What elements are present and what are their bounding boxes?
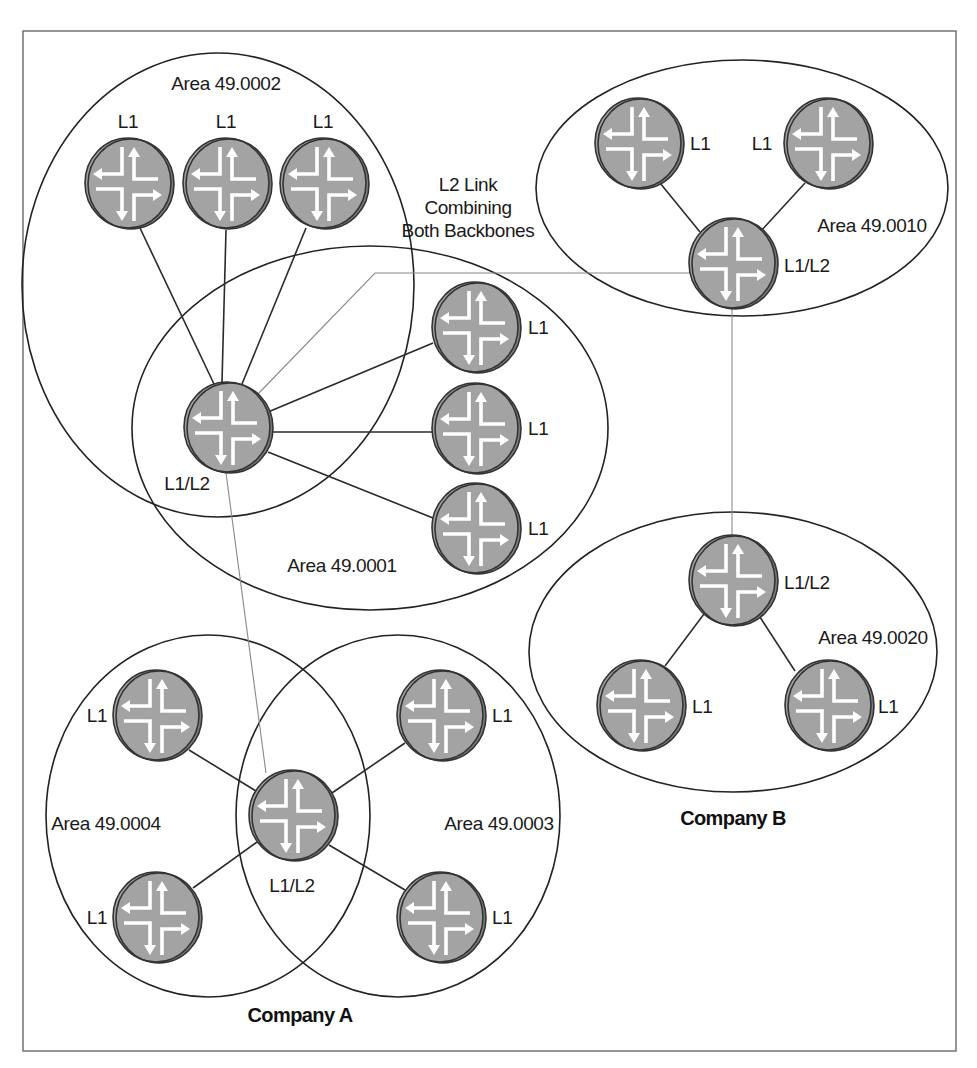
router-r16-icon[interactable]: [689, 535, 778, 626]
router-r17-label: L1: [692, 696, 712, 717]
router-r8-icon[interactable]: [113, 670, 202, 761]
area-49-0003-label: Area 49.0003: [444, 813, 553, 834]
link-r8-r10: [189, 750, 256, 791]
router-r8-label: L1: [87, 705, 107, 726]
link-r16-r18: [758, 614, 795, 671]
router-r15-label: L1/L2: [784, 255, 830, 276]
router-r17-icon[interactable]: [597, 660, 686, 751]
router-r14-label: L1: [752, 133, 772, 154]
router-r4-icon[interactable]: [184, 382, 273, 473]
router-r2-icon[interactable]: [183, 138, 272, 229]
link-r13-r15: [660, 183, 700, 232]
area-49-0020-label: Area 49.0020: [818, 627, 927, 648]
area-49-0001-label: Area 49.0001: [287, 555, 396, 576]
router-r9-label: L1: [87, 907, 107, 928]
router-r10-icon[interactable]: [249, 770, 338, 861]
router-r3-icon[interactable]: [280, 138, 369, 229]
l2-link-company-a: [226, 473, 266, 773]
router-r18-label: L1: [878, 696, 898, 717]
router-r11-label: L1: [492, 705, 512, 726]
router-r1-icon[interactable]: [85, 138, 174, 229]
router-r1-label: L1: [118, 111, 138, 132]
router-r6-icon[interactable]: [432, 383, 521, 474]
l2-link-annotation-line3: Both Backbones: [402, 220, 535, 241]
link-r4-r7: [268, 452, 433, 518]
company-a-label: Company A: [248, 1004, 353, 1026]
link-r16-r17: [665, 614, 704, 666]
router-r4-label: L1/L2: [164, 473, 210, 494]
router-r10-label: L1/L2: [269, 875, 315, 896]
link-r3-r4: [242, 228, 306, 384]
l2-link-annotation-line1: L2 Link: [439, 174, 498, 195]
router-r18-icon[interactable]: [785, 660, 874, 751]
link-r2-r4: [222, 230, 226, 382]
l2-link-annotation-line2: Combining: [424, 197, 511, 218]
router-r12-icon[interactable]: [397, 872, 486, 963]
link-r4-r5: [268, 343, 433, 412]
router-r7-label: L1: [528, 518, 548, 539]
router-r15-icon[interactable]: [689, 218, 778, 309]
network-diagram: L1 L1 L1 L1/L2 L1 L1 L1 L1 L1 L1/L2 L1 L…: [0, 0, 977, 1068]
router-r2-label: L1: [216, 111, 236, 132]
router-r13-icon[interactable]: [595, 98, 684, 189]
router-r13-label: L1: [690, 133, 710, 154]
link-r14-r15: [760, 183, 805, 232]
link-r11-r10: [329, 743, 405, 795]
company-b-label: Company B: [680, 807, 786, 829]
area-49-0010-label: Area 49.0010: [817, 215, 926, 236]
router-r5-label: L1: [528, 317, 548, 338]
link-r1-r4: [140, 228, 214, 384]
router-r3-label: L1: [313, 111, 333, 132]
router-r16-label: L1/L2: [784, 572, 830, 593]
router-r6-label: L1: [528, 418, 548, 439]
router-r11-icon[interactable]: [397, 670, 486, 761]
router-r5-icon[interactable]: [432, 282, 521, 373]
router-r9-icon[interactable]: [113, 872, 202, 963]
area-49-0002-label: Area 49.0002: [171, 73, 280, 94]
area-49-0004-label: Area 49.0004: [51, 813, 161, 834]
router-r14-icon[interactable]: [784, 98, 873, 189]
router-r7-icon[interactable]: [432, 483, 521, 574]
router-r12-label: L1: [492, 907, 512, 928]
